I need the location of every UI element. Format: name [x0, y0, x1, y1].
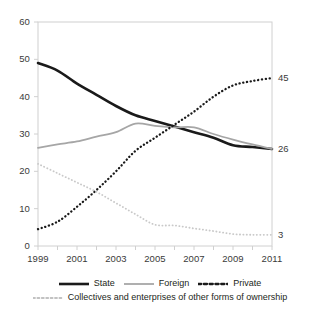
legend-item-state: State [59, 279, 115, 288]
x-tick-label-2011: 2011 [255, 253, 289, 264]
x-tick-label-2005: 2005 [138, 253, 172, 264]
x-tick-label-2001: 2001 [60, 253, 94, 264]
x-tick-label-2009: 2009 [216, 253, 250, 264]
end-label-45: 45 [278, 72, 289, 83]
y-tick-label-20: 20 [8, 165, 30, 176]
legend-swatch-private [198, 280, 228, 288]
legend-label-state: State [94, 279, 115, 288]
legend-item-foreign: Foreign [124, 279, 190, 288]
y-tick-label-0: 0 [8, 240, 30, 251]
y-tick-label-10: 10 [8, 203, 30, 214]
y-tick-label-50: 50 [8, 53, 30, 64]
y-tick-label-60: 60 [8, 16, 30, 27]
legend-label-collectives: Collectives and enterprises of other for… [68, 293, 288, 302]
series-line-private [38, 78, 272, 229]
legend-swatch-foreign [124, 280, 154, 288]
legend: State Foreign Private Collectives and [0, 279, 320, 302]
x-tick-label-2003: 2003 [99, 253, 133, 264]
end-label-26: 26 [278, 143, 289, 154]
legend-row-primary: State Foreign Private [0, 279, 320, 288]
legend-label-foreign: Foreign [159, 279, 190, 288]
legend-swatch-collectives [33, 294, 63, 302]
legend-item-collectives: Collectives and enterprises of other for… [33, 293, 288, 302]
series-line-collectives [38, 164, 272, 235]
y-tick-label-40: 40 [8, 91, 30, 102]
legend-row-secondary: Collectives and enterprises of other for… [0, 293, 320, 302]
chart-canvas [0, 0, 320, 321]
line-chart: 0102030405060 19992001200320052007200920… [0, 0, 320, 321]
legend-item-private: Private [198, 279, 261, 288]
series-lines [38, 63, 272, 235]
plot-frame [38, 22, 272, 246]
x-tick-label-1999: 1999 [21, 253, 55, 264]
axis-ticks [34, 22, 272, 250]
legend-label-private: Private [233, 279, 261, 288]
series-line-state [38, 63, 272, 149]
x-tick-label-2007: 2007 [177, 253, 211, 264]
end-label-3: 3 [278, 229, 283, 240]
y-tick-label-30: 30 [8, 128, 30, 139]
legend-swatch-state [59, 280, 89, 288]
